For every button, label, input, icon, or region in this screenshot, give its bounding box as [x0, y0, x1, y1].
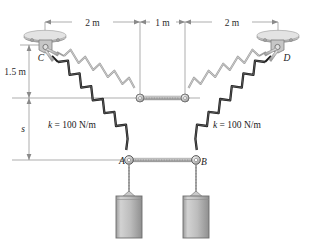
spring-C-to-A: [52, 56, 128, 150]
dim-arrow-seg2-left: [140, 20, 146, 25]
k-value-right: = 100 N/m: [217, 120, 261, 130]
block-left: [116, 196, 142, 238]
support-C-label: C: [38, 53, 45, 63]
dim-arrow-seg3-right: [272, 20, 278, 25]
joint-A-hole: [127, 158, 130, 161]
block-right-assembly: [183, 164, 209, 238]
block-left-assembly: [116, 164, 142, 238]
dim-label-s: s: [21, 124, 25, 134]
support-C-bolt-left: [31, 39, 34, 42]
support-C: C: [24, 30, 66, 63]
support-D-bolt-right: [290, 39, 293, 42]
dim-arrow-1p5m-top: [27, 45, 32, 51]
dim-arrow-seg1-left: [45, 20, 51, 25]
center-ring-right-hole: [184, 97, 187, 100]
dim-label-2m-left: 2 m: [85, 18, 100, 28]
spring-D-to-B: [195, 56, 271, 150]
support-D-plate-top: [257, 30, 299, 40]
support-D: D: [257, 30, 299, 63]
support-D-bolt-left: [264, 39, 267, 42]
dim-label-1p5m: 1.5 m: [4, 67, 26, 77]
joint-B-hole: [194, 158, 197, 161]
joint-A-label: A: [118, 156, 125, 166]
joint-B: B: [192, 156, 207, 167]
support-D-label: D: [283, 53, 291, 63]
block-right: [183, 196, 209, 238]
spring-constant-label-left: k = 100 N/m: [48, 120, 96, 130]
horizontal-dimension-group: 2 m 1 m 2 m: [45, 18, 278, 101]
joint-A: A: [118, 156, 133, 166]
center-ring-left-hole: [139, 97, 142, 100]
spring-constant-label-right: k = 100 N/m: [213, 120, 261, 130]
dim-label-1m: 1 m: [155, 18, 170, 28]
dim-arrow-s-bottom: [27, 154, 32, 160]
k-value-left: = 100 N/m: [52, 120, 96, 130]
support-C-plate-top: [24, 30, 66, 40]
center-connector-bar: [136, 94, 189, 102]
mechanics-figure: 2 m 1 m 2 m 1.5 m: [0, 0, 314, 242]
joint-B-label: B: [201, 157, 207, 167]
dim-arrow-seg2-right: [179, 20, 185, 25]
dim-arrow-s-top: [27, 98, 32, 104]
dim-arrow-1p5m-bottom: [27, 92, 32, 98]
dim-arrow-seg1-right: [134, 20, 140, 25]
dim-label-2m-right: 2 m: [225, 18, 240, 28]
bottom-connector-bar: [132, 158, 193, 161]
dim-arrow-seg3-left: [185, 20, 191, 25]
support-C-bolt-right: [57, 39, 60, 42]
